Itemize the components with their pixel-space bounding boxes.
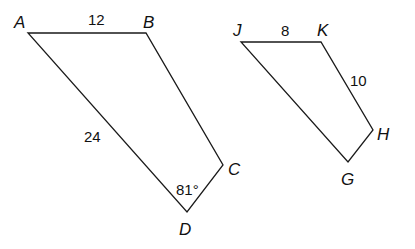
vertex-label-k: K: [317, 21, 329, 40]
angle-d-measure: 81°: [176, 181, 199, 198]
similar-quadrilaterals-diagram: A B C D 12 24 81° J K H G 8 10: [0, 0, 415, 249]
side-length-ab: 12: [88, 11, 105, 28]
side-length-kh: 10: [350, 72, 367, 89]
vertex-label-b: B: [143, 13, 154, 32]
quadrilateral-jkhg: [241, 42, 373, 162]
side-length-ad: 24: [84, 128, 101, 145]
vertex-label-h: H: [377, 125, 390, 144]
side-length-jk: 8: [281, 22, 289, 39]
vertex-label-j: J: [232, 21, 242, 40]
vertex-label-c: C: [228, 160, 241, 179]
vertex-label-a: A: [13, 13, 25, 32]
vertex-label-g: G: [341, 170, 354, 189]
vertex-label-d: D: [179, 220, 191, 239]
